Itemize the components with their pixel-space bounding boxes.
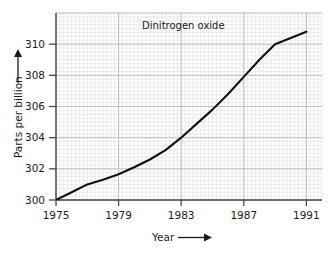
x-tick-label: 1979 — [105, 209, 132, 221]
y-tick-label: 302 — [25, 162, 45, 174]
x-axis-title: Year — [151, 231, 175, 243]
y-axis-title: Parts per billion — [12, 76, 24, 158]
series-annotation-label: Dinitrogen oxide — [142, 20, 225, 31]
y-tick-label: 310 — [25, 38, 45, 50]
chart-figure: 300302304306308310 19751979198319871991 … — [0, 0, 335, 256]
y-tick-label: 304 — [25, 131, 45, 143]
x-tick-label: 1983 — [168, 209, 195, 221]
y-tick-label: 308 — [25, 69, 45, 81]
y-tick-label: 306 — [25, 100, 45, 112]
x-tick-label: 1987 — [230, 209, 257, 221]
x-tick-label: 1991 — [293, 209, 320, 221]
y-tick-label: 300 — [25, 194, 45, 206]
line-chart: 300302304306308310 19751979198319871991 … — [0, 0, 335, 256]
x-tick-label: 1975 — [43, 209, 70, 221]
